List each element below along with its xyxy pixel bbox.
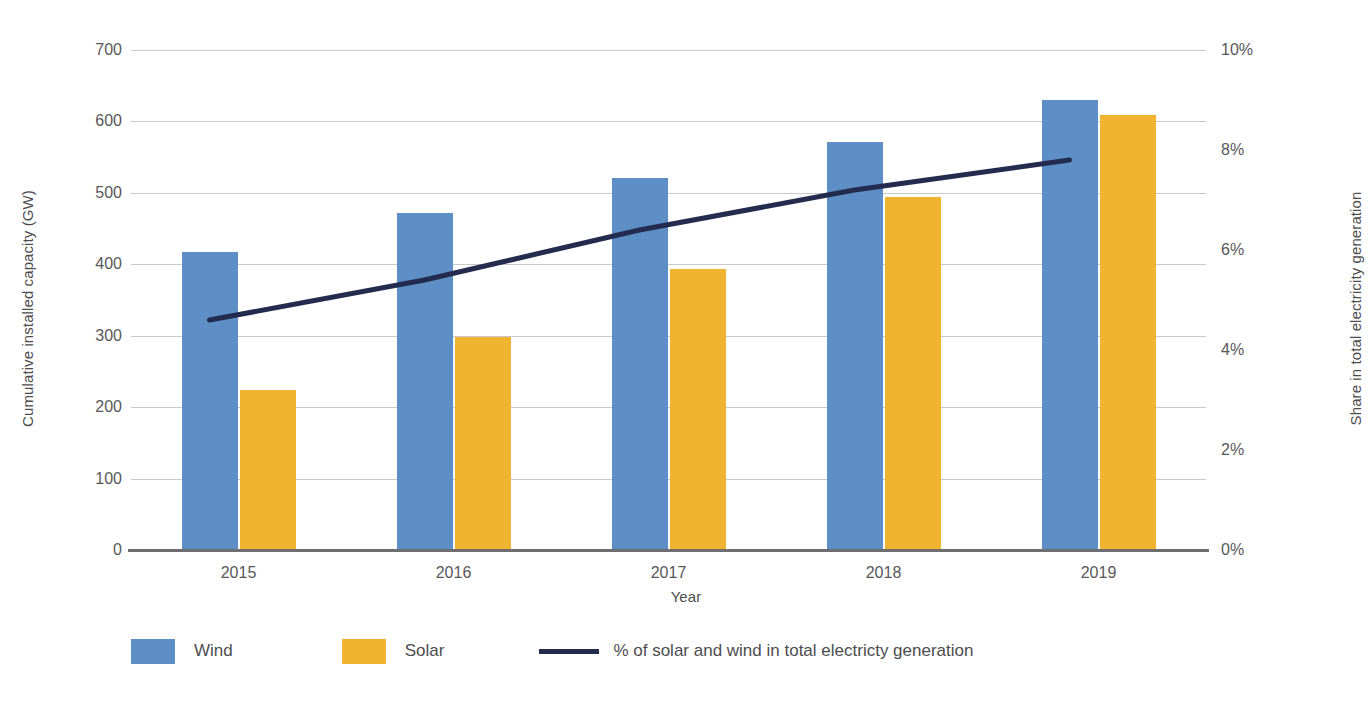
y-axis-left-tick-label: 0 [52, 542, 122, 558]
legend-item-share-line: % of solar and wind in total electricty … [539, 641, 973, 661]
legend-item-solar: Solar [342, 639, 445, 664]
plot-area: 7006005004003002001000 10%8%6%4%2%0% 201… [131, 50, 1206, 550]
legend-swatch-line-icon [539, 649, 599, 654]
x-axis-tick-label: 2015 [131, 564, 346, 582]
legend-label-solar: Solar [405, 641, 445, 661]
legend-label-share-line: % of solar and wind in total electricty … [613, 641, 973, 661]
y-axis-left-tick-label: 100 [52, 471, 122, 487]
line-series [131, 50, 1206, 550]
y-axis-left-tick-label: 300 [52, 328, 122, 344]
x-axis-tick-label: 2018 [776, 564, 991, 582]
x-axis-tick-label: 2017 [561, 564, 776, 582]
x-axis-tick-label: 2016 [346, 564, 561, 582]
y-axis-right-tick-label: 2% [1221, 442, 1291, 458]
y-axis-right-tick-label: 4% [1221, 342, 1291, 358]
y-axis-left-tick-label: 400 [52, 256, 122, 272]
y-axis-right-tick-label: 6% [1221, 242, 1291, 258]
x-axis-title: Year [0, 588, 1372, 605]
y-axis-right-tick-label: 10% [1221, 42, 1291, 58]
y-axis-left-tick-label: 500 [52, 185, 122, 201]
legend-swatch-solar-icon [342, 639, 386, 664]
y-axis-right-tick-label: 8% [1221, 142, 1291, 158]
legend-item-wind: Wind [131, 639, 233, 664]
chart-container: Cumulative installed capacity (GW) Share… [0, 0, 1372, 701]
y-axis-left-tick-label: 200 [52, 399, 122, 415]
y-axis-left-title: Cumulative installed capacity (GW) [19, 139, 36, 479]
chart-legend: Wind Solar % of solar and wind in total … [131, 634, 973, 668]
legend-label-wind: Wind [194, 641, 233, 661]
x-axis-tick-label: 2019 [991, 564, 1206, 582]
line-path [210, 160, 1070, 320]
y-axis-right-title: Share in total electricity generation [1347, 139, 1364, 479]
y-axis-left-tick-label: 700 [52, 42, 122, 58]
y-axis-right-tick-label: 0% [1221, 542, 1291, 558]
legend-swatch-wind-icon [131, 639, 175, 664]
y-axis-left-tick-label: 600 [52, 113, 122, 129]
x-axis-baseline [128, 549, 1209, 552]
